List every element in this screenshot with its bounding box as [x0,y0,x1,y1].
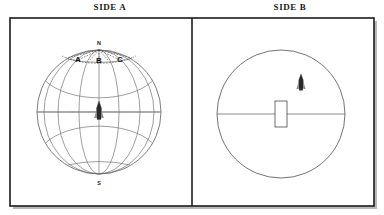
south-pole-label: S [97,180,101,186]
spacecraft-nozzle-b [299,88,303,90]
figure-container: SIDE A SIDE B [0,0,384,215]
point-label-b: B [96,56,102,65]
diagram-canvas: N S A B C [0,0,384,215]
slot-rectangle [275,101,287,127]
spacecraft-nozzle [97,117,101,119]
north-pole-label: N [97,40,101,46]
point-label-a: A [75,55,81,64]
point-label-c: C [117,55,123,64]
